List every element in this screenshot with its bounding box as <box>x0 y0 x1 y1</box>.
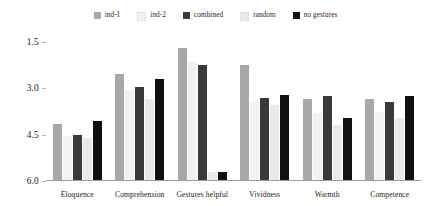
bar[interactable] <box>385 102 394 181</box>
chart-legend: ind-1ind-2combinedrandomno gestures <box>0 9 431 23</box>
bar[interactable] <box>343 118 352 181</box>
bar[interactable] <box>240 65 249 181</box>
x-axis-line <box>46 180 421 181</box>
bar[interactable] <box>178 48 187 181</box>
legend-item[interactable]: ind-1 <box>94 12 121 19</box>
bar[interactable] <box>333 125 342 181</box>
bar[interactable] <box>155 79 164 181</box>
bar-group: Eloquence <box>46 42 109 181</box>
bar[interactable] <box>303 99 312 181</box>
bar[interactable] <box>405 96 414 181</box>
legend-item-label: combined <box>194 12 223 19</box>
plot-area: EloquenceComprehensionGestures helpfulVi… <box>46 42 421 181</box>
legend-item-label: random <box>253 12 276 19</box>
x-axis-category-label: Eloquence <box>61 190 94 199</box>
bar[interactable] <box>63 136 72 181</box>
bar[interactable] <box>395 118 404 181</box>
legend-swatch-icon <box>137 12 146 21</box>
legend-item-label: no gestures <box>304 12 338 19</box>
x-axis-category-label: Competence <box>370 190 409 199</box>
bar[interactable] <box>188 62 197 181</box>
bar[interactable] <box>53 124 62 181</box>
bar-groups: EloquenceComprehensionGestures helpfulVi… <box>46 42 421 181</box>
bar[interactable] <box>375 112 384 182</box>
bar[interactable] <box>323 96 332 181</box>
legend-swatch-icon <box>240 12 249 21</box>
x-axis-category-label: Gestures helpful <box>176 190 228 199</box>
bar[interactable] <box>313 113 322 181</box>
bar[interactable] <box>270 105 279 181</box>
x-axis-category-label: Comprehension <box>115 190 164 199</box>
bar[interactable] <box>115 74 124 181</box>
legend-item[interactable]: no gestures <box>293 12 338 19</box>
bar-group: Comprehension <box>109 42 172 181</box>
bar[interactable] <box>93 121 102 181</box>
y-axis-tick-mark <box>42 88 46 89</box>
y-axis-tick-mark <box>42 135 46 136</box>
bar[interactable] <box>135 87 144 181</box>
bar[interactable] <box>250 102 259 181</box>
legend-swatch-icon <box>293 12 300 19</box>
bar-group: Warmth <box>296 42 359 181</box>
bar-chart: ind-1ind-2combinedrandomno gestures Eloq… <box>0 0 431 206</box>
legend-item[interactable]: ind-2 <box>137 12 166 21</box>
legend-swatch-icon <box>94 12 101 19</box>
bar[interactable] <box>125 90 134 181</box>
legend-item[interactable]: combined <box>183 12 223 19</box>
bar-group: Gestures helpful <box>171 42 234 181</box>
legend-item[interactable]: random <box>240 12 276 21</box>
bar[interactable] <box>198 65 207 181</box>
x-axis-category-label: Warmth <box>315 190 340 199</box>
bar[interactable] <box>280 95 289 181</box>
bar-group: Competence <box>359 42 422 181</box>
bar[interactable] <box>83 138 92 181</box>
x-axis-category-label: Vividness <box>249 190 280 199</box>
bar[interactable] <box>145 99 154 181</box>
bar[interactable] <box>260 98 269 181</box>
y-axis-tick-mark <box>42 42 46 43</box>
bar[interactable] <box>365 99 374 181</box>
legend-item-label: ind-2 <box>150 12 166 19</box>
bar-group: Vividness <box>234 42 297 181</box>
bar[interactable] <box>73 135 82 181</box>
legend-swatch-icon <box>183 12 190 19</box>
legend-item-label: ind-1 <box>105 12 121 19</box>
y-axis-tick-mark <box>42 181 46 182</box>
